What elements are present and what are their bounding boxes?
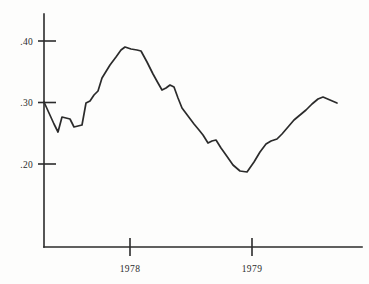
x-tick-label-1979: 1979 [242,264,263,274]
y-tick-label-020: .20 [20,160,33,170]
y-tick-label-040: .40 [20,37,33,47]
data-series-line [44,47,337,172]
line-chart-plot: .40 .30 .20 1978 1979 [0,0,369,284]
chart-figure: .40 .30 .20 1978 1979 [0,0,369,284]
x-tick-label-1978: 1978 [120,264,141,274]
y-tick-label-030: .30 [20,98,33,108]
